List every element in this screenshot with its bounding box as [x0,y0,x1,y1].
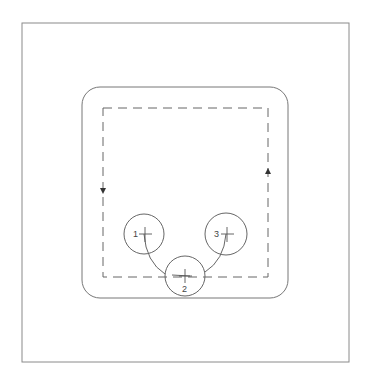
dashed-path [103,108,268,277]
arrow-up-icon [265,168,271,174]
station-label: 3 [214,229,219,239]
diagram-canvas: 1 3 2 [0,0,370,378]
arrow-down-icon [100,188,106,194]
outer-frame [22,23,349,362]
station-label: 1 [133,229,138,239]
station-3: 3 [205,213,247,255]
station-label: 2 [182,284,187,294]
station-1: 1 [124,214,164,254]
arc-2-to-3 [205,234,226,272]
station-2: 2 [165,256,205,296]
